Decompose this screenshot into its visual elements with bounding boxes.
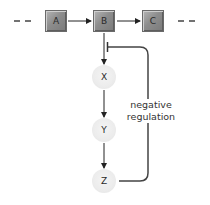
negative-regulation-label: negative regulation	[124, 99, 178, 123]
node-x: X	[92, 65, 116, 89]
node-a: A	[45, 10, 67, 32]
node-c-label: C	[150, 16, 156, 26]
label-line-2: regulation	[124, 111, 178, 123]
node-a-label: A	[53, 16, 59, 26]
node-x-label: X	[101, 72, 107, 82]
node-y-label: Y	[101, 125, 107, 135]
node-z: Z	[92, 169, 116, 193]
label-line-1: negative	[124, 99, 178, 111]
node-z-label: Z	[101, 176, 107, 186]
node-c: C	[142, 10, 164, 32]
node-b-label: B	[101, 16, 107, 26]
node-y: Y	[92, 118, 116, 142]
node-b: B	[93, 10, 115, 32]
